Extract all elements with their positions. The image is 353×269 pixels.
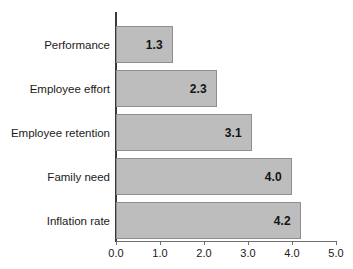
x-axis-line: [116, 241, 337, 242]
category-label: Employee retention: [11, 126, 110, 139]
bar[interactable]: 1.3: [116, 26, 173, 63]
x-tick-label: 5.0: [328, 247, 343, 259]
bar-value-label: 3.1: [225, 126, 242, 140]
bar[interactable]: 4.2: [116, 202, 301, 239]
x-tick-mark: [160, 241, 161, 245]
x-tick-label: 2.0: [196, 247, 211, 259]
x-tick-label: 4.0: [284, 247, 299, 259]
bar[interactable]: 2.3: [116, 70, 217, 107]
bar[interactable]: 4.0: [116, 158, 292, 195]
category-label: Family need: [47, 170, 110, 183]
x-tick-label: 0.0: [108, 247, 123, 259]
bar-chart: 0.01.02.03.04.05.0 1.32.33.14.04.2 Perfo…: [0, 0, 353, 269]
category-label: Employee effort: [30, 82, 110, 95]
x-tick-label: 3.0: [240, 247, 255, 259]
bar-value-label: 4.0: [265, 170, 282, 184]
x-tick-mark: [292, 241, 293, 245]
x-tick-mark: [116, 241, 117, 245]
bar-value-label: 4.2: [274, 214, 291, 228]
bar[interactable]: 3.1: [116, 114, 252, 151]
x-tick-mark: [248, 241, 249, 245]
x-tick-mark: [336, 241, 337, 245]
category-label: Inflation rate: [47, 214, 110, 227]
x-tick-mark: [204, 241, 205, 245]
bar-value-label: 2.3: [190, 82, 207, 96]
category-label: Performance: [44, 38, 110, 51]
bar-value-label: 1.3: [146, 38, 163, 52]
x-tick-label: 1.0: [152, 247, 167, 259]
